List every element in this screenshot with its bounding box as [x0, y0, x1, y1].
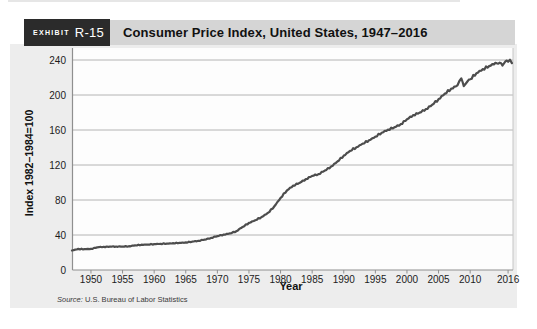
- x-tick-label-1970: 1970: [206, 274, 229, 285]
- x-tick-label-2016: 2016: [497, 274, 520, 285]
- y-axis-title: Index 1982–1984=100: [23, 110, 35, 217]
- x-tick-label-1975: 1975: [238, 274, 261, 285]
- y-tick-label-40: 40: [55, 230, 67, 241]
- cpi-line-chart: 0408012016020024019501955196019651970197…: [0, 0, 537, 329]
- y-tick-label-120: 120: [49, 160, 66, 171]
- y-tick-label-80: 80: [55, 195, 67, 206]
- source-note: Source: U.S. Bureau of Labor Statistics: [57, 295, 188, 304]
- x-tick-label-1990: 1990: [333, 274, 356, 285]
- x-tick-label-1965: 1965: [175, 274, 198, 285]
- y-tick-label-160: 160: [49, 125, 66, 136]
- y-tick-label-240: 240: [49, 55, 66, 66]
- plot-background: [73, 48, 514, 270]
- x-tick-label-1955: 1955: [111, 274, 134, 285]
- source-text: U.S. Bureau of Labor Statistics: [85, 295, 188, 304]
- y-tick-label-200: 200: [49, 90, 66, 101]
- source-prefix: Source:: [57, 295, 83, 304]
- x-tick-label-1960: 1960: [143, 274, 166, 285]
- plot-area: [73, 48, 514, 270]
- x-tick-label-1950: 1950: [80, 274, 103, 285]
- x-tick-label-1985: 1985: [301, 274, 324, 285]
- exhibit-figure: EXHIBIT R-15 Consumer Price Index, Unite…: [0, 0, 537, 329]
- x-axis-title: Year: [279, 280, 303, 292]
- x-tick-label-1995: 1995: [364, 274, 387, 285]
- y-tick-label-0: 0: [60, 265, 66, 276]
- x-tick-label-2005: 2005: [427, 274, 450, 285]
- x-tick-label-2010: 2010: [459, 274, 482, 285]
- x-tick-label-2000: 2000: [396, 274, 419, 285]
